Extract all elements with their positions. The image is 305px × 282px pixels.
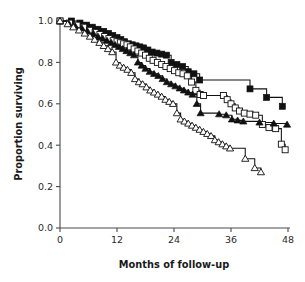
y-tick-label: 0.2 xyxy=(38,181,53,192)
y-tick-label: 0.8 xyxy=(38,57,53,68)
x-tick-label: 48 xyxy=(282,234,294,245)
data-point-marker xyxy=(283,121,290,127)
data-point-marker xyxy=(184,73,190,79)
y-axis-title: Proportion surviving xyxy=(13,67,24,181)
y-tick-label: 0.6 xyxy=(38,98,53,109)
data-point-marker xyxy=(200,93,206,99)
kaplan-meier-plot: 0.00.20.40.60.81.0 012243648 Months of f… xyxy=(0,0,305,282)
data-point-marker xyxy=(278,141,284,147)
data-point-marker xyxy=(282,147,288,153)
x-tick-label: 24 xyxy=(168,234,180,245)
y-tick-label: 1.0 xyxy=(38,15,53,26)
data-point-marker xyxy=(273,126,279,132)
x-tick-label: 36 xyxy=(225,234,237,245)
data-point-marker xyxy=(257,169,264,175)
data-point-marker xyxy=(180,64,186,70)
y-axis-ticks: 0.00.20.40.60.81.0 xyxy=(38,15,60,233)
data-point-marker xyxy=(174,61,180,67)
data-point-marker xyxy=(279,103,285,109)
y-tick-label: 0.4 xyxy=(38,140,53,151)
data-point-marker xyxy=(241,110,247,116)
x-tick-label: 0 xyxy=(57,234,63,245)
data-point-marker xyxy=(264,94,270,100)
x-tick-label: 12 xyxy=(111,234,123,245)
x-axis-title: Months of follow-up xyxy=(119,259,229,270)
x-axis-ticks: 012243648 xyxy=(57,228,294,245)
data-point-marker xyxy=(191,71,197,77)
data-point-marker xyxy=(253,112,259,118)
data-point-marker xyxy=(247,86,253,92)
survival-chart-figure: 0.00.20.40.60.81.0 012243648 Months of f… xyxy=(0,0,305,282)
y-tick-label: 0.0 xyxy=(38,222,53,233)
data-point-marker xyxy=(189,79,195,85)
data-point-marker xyxy=(163,52,169,58)
survival-curves xyxy=(60,21,287,172)
data-point-marker xyxy=(197,77,203,83)
data-point-marker xyxy=(247,111,253,117)
censoring-markers xyxy=(56,18,290,175)
